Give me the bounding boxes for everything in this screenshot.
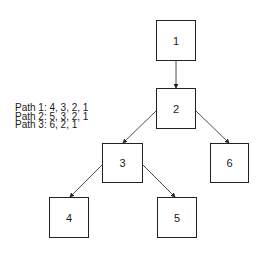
node-4: 4 (49, 197, 89, 238)
node-6-label: 6 (226, 157, 232, 169)
node-5-label: 5 (174, 212, 180, 224)
node-1-label: 1 (173, 35, 179, 47)
path-legend: Path 1: 4, 3, 2, 1 Path 2: 5, 3, 2, 1 Pa… (15, 104, 88, 130)
edge-2-3 (123, 111, 156, 143)
node-6: 6 (210, 143, 249, 183)
node-4-label: 4 (66, 212, 72, 224)
node-5: 5 (157, 197, 197, 238)
edge-3-4 (70, 165, 102, 197)
edge-3-5 (143, 165, 175, 197)
node-2: 2 (156, 88, 196, 129)
node-1: 1 (156, 20, 196, 61)
node-3: 3 (102, 143, 143, 183)
node-3-label: 3 (119, 157, 125, 169)
node-2-label: 2 (173, 103, 179, 115)
edge-2-6 (196, 111, 229, 143)
path-3-text: Path 3: 6, 2, 1 (15, 121, 88, 130)
